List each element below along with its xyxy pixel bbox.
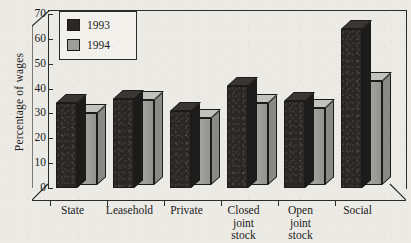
bar-1993-social — [341, 29, 362, 188]
bar-face — [170, 111, 191, 188]
bar-side-face — [77, 95, 86, 188]
y-tick-mark-60 — [48, 39, 53, 40]
y-tick-label-30: 30 — [24, 107, 46, 119]
bar-1993-closed-joint-stock — [227, 86, 248, 188]
x-axis-label-0: State — [42, 204, 103, 217]
bar-side-face — [325, 100, 334, 185]
x-axis-label-3: Closedjointstock — [213, 204, 274, 242]
bar-face — [56, 103, 77, 188]
bar-side-face — [362, 21, 371, 188]
bar-side-face — [305, 93, 314, 188]
y-tick-label-70: 70 — [24, 8, 46, 20]
bar-side-face — [97, 105, 106, 185]
black-square-swatch-icon — [67, 19, 80, 31]
bar-face — [341, 29, 362, 188]
chart-legend: 1993 1994 — [59, 11, 137, 60]
bar-face — [284, 101, 305, 188]
y-tick-label-50: 50 — [24, 58, 46, 70]
bar-side-face — [211, 110, 220, 185]
bar-side-face — [382, 72, 391, 184]
y-tick-label-20: 20 — [24, 132, 46, 144]
x-axis-label-2: Private — [156, 204, 217, 217]
bar-1993-state — [56, 103, 77, 188]
y-tick-label-60: 60 — [24, 33, 46, 45]
y-axis-title: Percentage of wages — [13, 27, 25, 177]
y-tick-mark-0 — [48, 188, 53, 189]
y-tick-mark-70 — [48, 14, 53, 15]
bar-face — [113, 99, 134, 188]
y-axis-line — [48, 14, 49, 188]
y-tick-mark-20 — [48, 138, 53, 139]
gray-square-swatch-icon — [67, 39, 80, 51]
y-tick-mark-50 — [48, 64, 53, 65]
y-tick-mark-30 — [48, 113, 53, 114]
bar-1993-open-joint-stock — [284, 101, 305, 188]
bar-side-face — [268, 95, 277, 185]
y-tick-label-10: 10 — [24, 157, 46, 169]
x-axis-label-1: Leasehold — [99, 204, 160, 217]
legend-label-1993: 1993 — [87, 19, 110, 31]
y-tick-label-0: 0 — [24, 182, 46, 194]
bar-side-face — [154, 92, 163, 185]
legend-label-1994: 1994 — [87, 39, 110, 51]
bar-side-face — [191, 103, 200, 188]
x-axis-label-4: Openjointstock — [270, 204, 331, 242]
y-tick-label-40: 40 — [24, 83, 46, 95]
x-axis-line — [32, 200, 406, 201]
bar-1993-private — [170, 111, 191, 188]
bar-1993-leasehold — [113, 99, 134, 188]
y-tick-mark-40 — [48, 89, 53, 90]
bar-side-face — [134, 90, 143, 188]
x-axis-label-5: Social — [327, 204, 388, 217]
y-tick-mark-10 — [48, 163, 53, 164]
legend-item-1993: 1993 — [67, 17, 110, 33]
legend-item-1994: 1994 — [67, 37, 110, 53]
bar-side-face — [248, 78, 257, 188]
bar-chart: Percentage of wages 706050403020100 Stat… — [0, 0, 411, 243]
bar-face — [227, 86, 248, 188]
